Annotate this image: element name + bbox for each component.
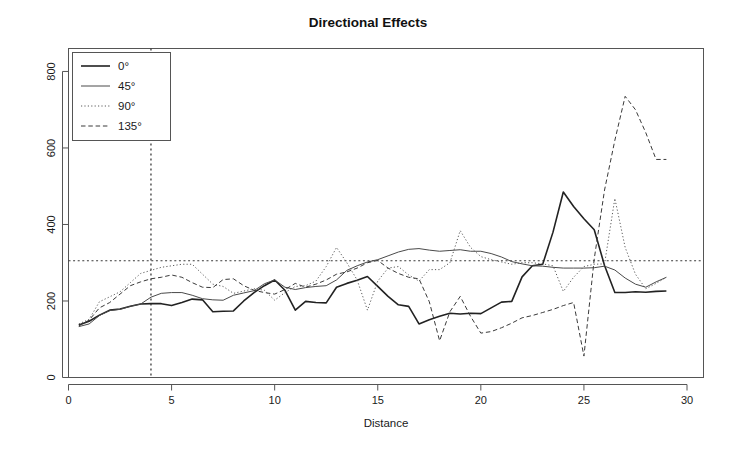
legend-label-90deg: 90°	[118, 100, 135, 112]
x-tick-label: 10	[269, 394, 281, 406]
legend-label-0deg: 0°	[118, 60, 129, 72]
legend-label-45deg: 45°	[118, 80, 135, 92]
y-tick-label: 0	[45, 374, 57, 380]
directional-variogram-chart: Directional Effects 0200400600800 051015…	[0, 0, 736, 456]
page-title: Directional Effects	[309, 15, 428, 30]
x-axis-title: Distance	[364, 417, 409, 429]
x-tick-label: 5	[169, 394, 175, 406]
y-tick-label: 400	[45, 215, 57, 233]
chart-figure: Directional Effects 0200400600800 051015…	[0, 0, 736, 456]
x-tick-label: 15	[372, 394, 384, 406]
legend-label-135deg: 135°	[118, 120, 142, 132]
x-tick-label: 20	[475, 394, 487, 406]
x-tick-label: 30	[681, 394, 693, 406]
y-tick-label: 800	[45, 62, 57, 80]
y-tick-label: 200	[45, 292, 57, 310]
x-tick-label: 0	[65, 394, 71, 406]
legend: 0°45°90°135°	[73, 53, 171, 141]
y-tick-label: 600	[45, 139, 57, 157]
x-tick-label: 25	[578, 394, 590, 406]
